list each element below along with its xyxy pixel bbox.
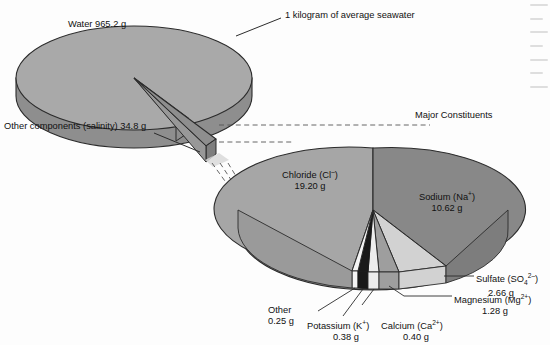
leader-calcium bbox=[362, 289, 374, 305]
label-calcium: Calcium (Ca2+) 0.40 g bbox=[381, 317, 443, 343]
label-magnesium: Magnesium (Mg2+) 1.28 g bbox=[454, 291, 531, 317]
label-sodium-close: ) bbox=[472, 192, 475, 202]
label-magnesium-name: Magnesium (Mg bbox=[454, 295, 521, 305]
label-magnesium-value: 1.28 g bbox=[482, 306, 508, 317]
label-other-value: 0.25 g bbox=[268, 316, 294, 326]
label-sodium-name: Sodium (Na bbox=[419, 192, 468, 202]
label-sulfate-close: ) bbox=[535, 274, 538, 284]
label-sulfate-sub: 4 bbox=[524, 279, 528, 286]
wall-other bbox=[352, 271, 358, 288]
label-calcium-name: Calcium (Ca bbox=[381, 321, 432, 331]
label-sodium-value: 10.62 g bbox=[431, 203, 462, 213]
label-sodium: Sodium (Na+) 10.62 g bbox=[395, 188, 499, 214]
label-calcium-value: 0.40 g bbox=[403, 332, 429, 343]
label-calcium-charge: 2+ bbox=[432, 319, 440, 326]
label-sulfate-charge: 2– bbox=[528, 272, 535, 279]
label-chloride: Chloride (Cl–) 19.20 g bbox=[255, 166, 365, 192]
leader-potassium bbox=[343, 289, 363, 316]
label-other-name: Other bbox=[268, 305, 291, 315]
label-chloride-name: Chloride (Cl bbox=[282, 170, 331, 180]
page-edge-scan-artifact bbox=[530, 4, 548, 88]
label-other: Other 0.25 g bbox=[268, 305, 294, 327]
label-sulfate-name: Sulfate (SO bbox=[476, 274, 524, 284]
label-calcium-close: ) bbox=[440, 321, 443, 331]
label-water: Water 965.2 g bbox=[68, 19, 126, 30]
wall-potassium bbox=[358, 271, 368, 289]
label-potassium-close: ) bbox=[366, 321, 369, 331]
label-potassium-name: Potassium (K bbox=[307, 321, 362, 331]
callout-kilogram-seawater: 1 kilogram of average seawater bbox=[285, 10, 415, 21]
label-potassium-value: 0.38 g bbox=[333, 332, 359, 343]
leader-line-kilogram bbox=[236, 18, 281, 36]
figure-seawater-composition: 1 kilogram of average seawater Water 965… bbox=[0, 0, 550, 345]
label-potassium: Potassium (K+) 0.38 g bbox=[307, 317, 369, 343]
wall-calcium bbox=[368, 272, 379, 289]
label-major-constituents: Major Constituents bbox=[415, 110, 493, 121]
label-magnesium-close: ) bbox=[528, 295, 531, 305]
label-chloride-close: ) bbox=[335, 170, 338, 180]
label-chloride-value: 19.20 g bbox=[294, 181, 325, 191]
label-salinity: Other components (salinity) 34.8 g bbox=[4, 121, 146, 132]
